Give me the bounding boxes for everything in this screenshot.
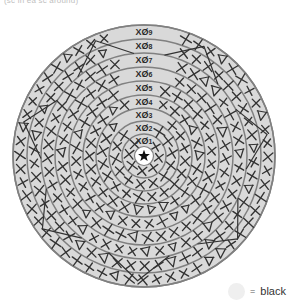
legend-color-label: black xyxy=(260,286,286,297)
round-label-group: XØ1XØ2XØ3XØ4XØ5XØ6XØ7XØ8XØ9 xyxy=(136,27,153,146)
legend-color-swatch xyxy=(228,283,245,300)
round-label-1: XØ1 xyxy=(136,136,153,146)
round-label-4: XØ4 xyxy=(136,97,153,107)
center-star-icon xyxy=(135,147,154,166)
round-label-9: XØ9 xyxy=(136,27,153,37)
round-label-6: XØ6 xyxy=(136,69,153,79)
round-label-3: XØ3 xyxy=(136,110,153,120)
legend: = black xyxy=(228,283,286,300)
crochet-circle-diagram: XØ1XØ2XØ3XØ4XØ5XØ6XØ7XØ8XØ9 xyxy=(0,0,290,308)
round-label-8: XØ8 xyxy=(136,41,153,51)
round-label-5: XØ5 xyxy=(136,83,153,93)
round-label-7: XØ7 xyxy=(136,55,153,65)
legend-equals: = xyxy=(250,287,255,296)
round-label-2: XØ2 xyxy=(136,123,153,133)
diagram-stage: (sc in ea sc around) XØ1XØ2XØ3XØ4XØ5XØ6X… xyxy=(0,0,290,308)
